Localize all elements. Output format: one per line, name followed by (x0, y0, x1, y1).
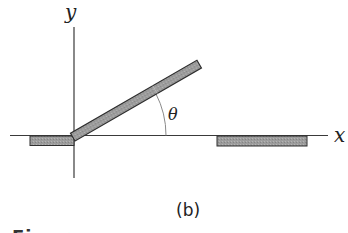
theta-label: θ (168, 107, 178, 123)
subfigure-label: (b) (176, 202, 200, 219)
figure-caption-clipped: Figure (0, 226, 348, 233)
caption-text: Figure (12, 226, 83, 233)
x-axis-label: x (334, 125, 345, 145)
angle-arc (156, 94, 166, 136)
y-axis-label: y (65, 2, 76, 22)
diagram-figure: y x θ (b) Figure (0, 0, 348, 233)
right-bar-segment (217, 136, 307, 146)
left-bar-segment (30, 136, 74, 146)
tilted-rod (71, 60, 202, 141)
